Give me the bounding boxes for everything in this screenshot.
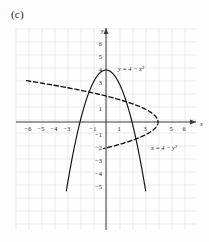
svg-text:−5: −5: [95, 183, 102, 190]
svg-text:3: 3: [143, 125, 146, 132]
svg-text:−3: −3: [64, 125, 71, 132]
x-axis-label: x: [199, 120, 203, 127]
curve-label-parabola-y: y = 4 − x²: [117, 65, 144, 72]
svg-text:−1: −1: [95, 131, 102, 138]
svg-text:5: 5: [99, 53, 102, 60]
curve-label-parabola-x: x = 4 − y²: [150, 144, 177, 151]
svg-text:5: 5: [169, 125, 172, 132]
svg-text:6: 6: [99, 40, 102, 47]
svg-text:1: 1: [99, 105, 102, 112]
svg-text:−4: −4: [95, 170, 103, 177]
svg-text:−5: −5: [38, 125, 45, 132]
svg-text:3: 3: [99, 79, 102, 86]
svg-text:−6: −6: [25, 125, 32, 132]
svg-text:6: 6: [182, 125, 185, 132]
svg-text:−4: −4: [51, 125, 59, 132]
svg-text:1: 1: [117, 125, 120, 132]
svg-text:−3: −3: [95, 157, 102, 164]
y-axis-label: y: [100, 27, 104, 34]
figure-panel: (c) −6−5−4−3−11356 65431−1−2−3−4−5 x y y…: [0, 0, 209, 242]
curve-x-equals-4-minus-y-squared: [27, 81, 158, 149]
x-axis-tick-labels: −6−5−4−3−11356: [25, 125, 186, 132]
graph-plot: −6−5−4−3−11356 65431−1−2−3−4−5 x y y = 4…: [0, 0, 209, 242]
svg-text:−2: −2: [95, 144, 102, 151]
y-axis-tick-labels: 65431−1−2−3−4−5: [95, 40, 103, 190]
